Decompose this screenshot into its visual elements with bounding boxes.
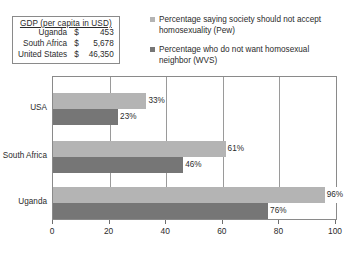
bar-uganda-pew[interactable]: 96% [53,187,325,203]
bar-uganda-wvs[interactable]: 76% [53,203,268,219]
x-tick-label-20: 20 [104,226,113,236]
category-label-usa: USA [0,92,47,124]
bar-south-africa-wvs[interactable]: 46% [53,157,183,173]
bar-usa-wvs[interactable]: 23% [53,109,118,125]
table-row: United States $ 46,350 [18,50,114,61]
bar-value-label: 76% [268,203,287,219]
y-axis-category-labels: USA South Africa Uganda [0,76,49,220]
category-label-uganda: Uganda [0,186,47,218]
gdp-table-caption: GDP (per capita in USD) [18,19,114,28]
gdp-table-grid: Uganda $ 453 South Africa $ 5,678 United… [18,28,114,60]
gdp-table: GDP (per capita in USD) Uganda $ 453 Sou… [12,16,120,64]
x-tick-label-40: 40 [161,226,170,236]
gdp-amount: 5,678 [80,39,114,50]
x-tick [109,220,110,224]
x-tick [165,220,166,224]
category-label-south-africa: South Africa [0,140,47,172]
bar-value-label: 61% [226,141,245,157]
gdp-amount: 46,350 [80,50,114,61]
legend-swatch-icon [150,47,155,52]
bar-value-label: 23% [118,109,137,125]
bar-value-label: 33% [146,93,165,109]
chart-legend: Percentage saying society should not acc… [150,14,350,73]
x-tick [222,220,223,224]
gdp-amount: 453 [80,28,114,39]
x-tick-label-60: 60 [217,226,226,236]
legend-item-pew: Percentage saying society should not acc… [150,14,350,37]
bar-south-africa-pew[interactable]: 61% [53,141,226,157]
table-row: Uganda $ 453 [18,28,114,39]
table-row: South Africa $ 5,678 [18,39,114,50]
gdp-country: United States [18,50,74,61]
bar-value-label: 46% [183,157,202,173]
legend-item-wvs: Percentage who do not want homosexual ne… [150,44,350,67]
legend-item-label: Percentage who do not want homosexual ne… [159,44,341,67]
x-tick-label-0: 0 [50,226,55,236]
gdp-country: Uganda [18,28,74,39]
gdp-country: South Africa [18,39,74,50]
legend-swatch-icon [150,17,155,22]
gdp-currency: $ [74,50,80,61]
x-tick [278,220,279,224]
x-tick [52,220,53,224]
x-tick-label-100: 100 [328,226,342,236]
bar-value-label: 96% [325,187,344,203]
x-axis: 0 20 40 60 80 100 [52,220,337,242]
plot-area: 33% 23% 61% 46% 96% 76% [52,76,337,220]
x-tick-label-80: 80 [274,226,283,236]
bar-usa-pew[interactable]: 33% [53,93,146,109]
x-tick [335,220,336,224]
legend-item-label: Percentage saying society should not acc… [159,14,341,37]
